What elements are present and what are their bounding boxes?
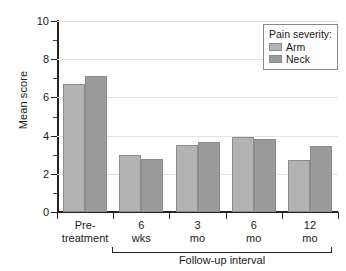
x-axis-label-line2: wks	[113, 232, 169, 245]
y-axis-tick-label: 0	[43, 207, 49, 218]
y-axis-tick-label: 6	[43, 92, 49, 103]
x-axis-label-line1: 12	[304, 219, 316, 231]
bar-neck-6-wks	[141, 159, 163, 212]
gridline	[57, 21, 338, 22]
x-axis-title: Follow-up interval	[112, 254, 332, 266]
x-axis-label-line2: mo	[282, 232, 338, 245]
y-axis-minor-tick	[53, 155, 57, 156]
y-axis-tick	[51, 21, 57, 22]
x-axis-label-12-mo: 12mo	[282, 219, 338, 244]
legend-label-arm: Arm	[286, 41, 305, 53]
bar-chart: Mean score 0246810 Pre-treatment6wks3mo6…	[0, 0, 346, 271]
legend-swatch-neck-icon	[269, 55, 282, 63]
x-axis-label-6-mo: 6mo	[226, 219, 282, 244]
legend-swatch-arm-icon	[269, 43, 282, 51]
x-axis-label-line1: 3	[194, 219, 200, 231]
x-axis-label-line1: Pre-	[75, 219, 96, 231]
x-axis-group-tick	[338, 212, 339, 219]
x-axis-group-tick	[282, 212, 283, 219]
y-axis-minor-tick	[53, 193, 57, 194]
follow-up-bracket	[112, 247, 332, 253]
x-axis-label-6-wks: 6wks	[113, 219, 169, 244]
bar-neck-12-mo	[310, 146, 332, 212]
x-axis-group-tick	[226, 212, 227, 219]
y-axis-minor-tick	[53, 78, 57, 79]
legend: Pain severity: Arm Neck	[263, 24, 338, 70]
x-axis-group-tick	[57, 212, 58, 219]
bar-neck-pre-treatment	[85, 76, 107, 212]
bar-arm-pre-treatment	[63, 84, 85, 212]
x-axis-group-tick	[169, 212, 170, 219]
x-axis-label-line2: mo	[169, 232, 225, 245]
x-axis-label-pre-treatment: Pre-treatment	[57, 219, 113, 244]
x-axis-label-3-mo: 3mo	[169, 219, 225, 244]
x-axis-label-line2: mo	[226, 232, 282, 245]
y-axis-tick-label: 2	[43, 168, 49, 179]
y-axis-tick	[51, 174, 57, 175]
y-axis-tick	[51, 97, 57, 98]
bar-neck-3-mo	[198, 142, 220, 212]
bar-arm-6-wks	[119, 155, 141, 212]
bar-arm-6-mo	[232, 137, 254, 212]
y-axis-tick-label: 8	[43, 54, 49, 65]
y-axis-tick-label: 4	[43, 130, 49, 141]
y-axis-tick	[51, 136, 57, 137]
legend-item-neck: Neck	[269, 53, 333, 65]
y-axis-tick-label: 10	[37, 16, 49, 27]
y-axis-title: Mean score	[17, 55, 29, 145]
x-axis-label-line1: 6	[251, 219, 257, 231]
bar-arm-12-mo	[288, 160, 310, 212]
y-axis-tick	[51, 59, 57, 60]
y-axis-minor-tick	[53, 117, 57, 118]
legend-item-arm: Arm	[269, 41, 333, 53]
x-axis-label-line1: 6	[138, 219, 144, 231]
legend-title: Pain severity:	[269, 28, 333, 40]
bar-arm-3-mo	[176, 145, 198, 212]
legend-label-neck: Neck	[286, 53, 310, 65]
bar-neck-6-mo	[254, 139, 276, 212]
x-axis-group-tick	[113, 212, 114, 219]
x-axis-label-line2: treatment	[57, 232, 113, 245]
y-axis-minor-tick	[53, 40, 57, 41]
